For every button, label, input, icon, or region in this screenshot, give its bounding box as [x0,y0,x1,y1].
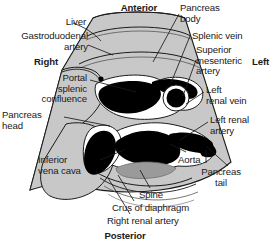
label-spine: Spine [139,190,179,201]
label-portal-splenic-confluence: Portal splenic confluence [5,73,87,105]
label-crus-of-diaphragm: Crus of diaphragm [112,203,222,214]
superior-mesenteric-artery [163,85,189,111]
label-liver: Liver [44,17,86,28]
label-right-renal-artery: Right renal artery [107,216,217,227]
label-pancreas-body: Pancreas body [180,3,242,24]
label-gastroduodenal-artery: Gastroduodenal artery [4,31,88,52]
label-right: Right [34,57,74,68]
label-pancreas-tail: Pancreas tail [190,167,252,188]
label-posterior: Posterior [92,231,158,242]
label-anterior: Anterior [106,3,172,14]
label-splenic-vein: Splenic vein [192,31,272,42]
label-aorta: Aorta [178,155,218,166]
label-inferior-vena-cava: Inferior vena cava [38,155,104,176]
label-left-renal-artery: Left renal artery [210,115,274,136]
gastroduodenal-artery [98,76,103,81]
anatomy-diagram: Anterior Liver Gastroduodenal artery Rig… [0,0,278,246]
label-left-renal-vein: Left renal vein [206,85,270,106]
label-left: Left [252,57,278,68]
label-pancreas-head: Pancreas head [2,110,62,131]
